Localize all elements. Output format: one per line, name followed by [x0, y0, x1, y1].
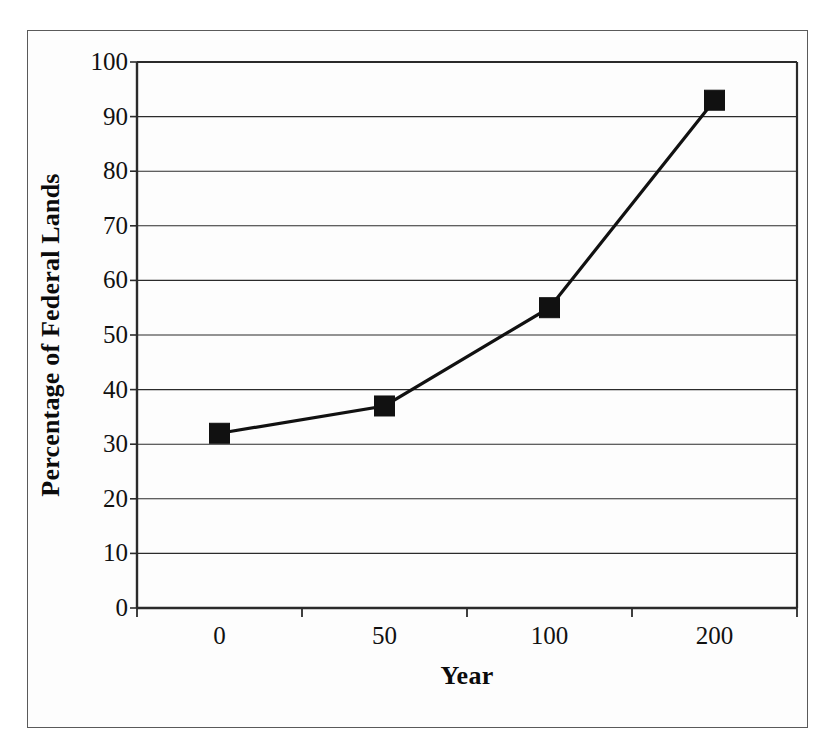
x-tick-label: 50 — [325, 623, 445, 648]
x-axis-title: Year — [137, 661, 797, 691]
chart-figure: 0102030405060708090100 050100200 Year Pe… — [0, 0, 835, 752]
x-tick-label: 0 — [160, 623, 280, 648]
x-axis-tick-labels: 050100200 — [0, 0, 835, 752]
x-tick-label: 200 — [655, 623, 775, 648]
y-axis-title: Percentage of Federal Lands — [36, 173, 66, 496]
x-tick-label: 100 — [490, 623, 610, 648]
y-axis-title-container: Percentage of Federal Lands — [34, 62, 68, 608]
